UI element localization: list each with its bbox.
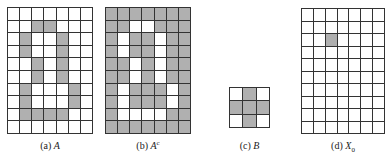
- empty-cell: [8, 33, 20, 46]
- caption-prefix: (b): [136, 140, 150, 151]
- caption-panel-b: (b) Ac: [105, 140, 191, 151]
- filled-cell: [118, 121, 130, 134]
- empty-cell: [57, 21, 69, 34]
- empty-cell: [57, 84, 69, 97]
- filled-cell: [32, 58, 44, 71]
- empty-cell: [44, 96, 56, 109]
- empty-cell: [338, 97, 350, 110]
- filled-cell: [167, 58, 179, 71]
- filled-cell: [57, 109, 69, 122]
- filled-cell: [20, 46, 32, 59]
- empty-cell: [130, 71, 142, 84]
- empty-cell: [314, 109, 326, 122]
- empty-cell: [373, 109, 385, 122]
- grid-panel-c: [229, 87, 270, 128]
- empty-cell: [118, 96, 130, 109]
- empty-cell: [81, 121, 93, 134]
- filled-cell: [32, 109, 44, 122]
- empty-cell: [32, 84, 44, 97]
- filled-cell: [32, 71, 44, 84]
- empty-cell: [338, 9, 350, 22]
- empty-cell: [338, 72, 350, 85]
- empty-cell: [69, 121, 81, 134]
- empty-cell: [373, 97, 385, 110]
- empty-cell: [314, 59, 326, 72]
- filled-cell: [167, 33, 179, 46]
- empty-cell: [326, 84, 338, 97]
- filled-cell: [118, 58, 130, 71]
- empty-cell: [20, 8, 32, 21]
- empty-cell: [44, 33, 56, 46]
- empty-cell: [142, 21, 154, 34]
- empty-cell: [155, 58, 167, 71]
- filled-cell: [167, 121, 179, 134]
- empty-cell: [314, 122, 326, 135]
- empty-cell: [373, 22, 385, 35]
- filled-cell: [179, 96, 191, 109]
- filled-cell: [106, 58, 118, 71]
- empty-cell: [338, 34, 350, 47]
- caption-prefix: (c): [240, 140, 254, 151]
- filled-cell: [155, 8, 167, 21]
- empty-cell: [8, 21, 20, 34]
- empty-cell: [349, 97, 361, 110]
- filled-cell: [69, 84, 81, 97]
- filled-cell: [57, 58, 69, 71]
- empty-cell: [314, 84, 326, 97]
- filled-cell: [118, 8, 130, 21]
- filled-cell: [167, 71, 179, 84]
- filled-cell: [106, 71, 118, 84]
- filled-cell: [167, 46, 179, 59]
- empty-cell: [361, 84, 373, 97]
- empty-cell: [44, 84, 56, 97]
- empty-cell: [8, 8, 20, 21]
- empty-cell: [230, 115, 243, 128]
- empty-cell: [118, 46, 130, 59]
- empty-cell: [302, 34, 314, 47]
- empty-cell: [314, 9, 326, 22]
- empty-cell: [361, 59, 373, 72]
- empty-cell: [326, 47, 338, 60]
- empty-cell: [326, 109, 338, 122]
- empty-cell: [81, 58, 93, 71]
- filled-cell: [326, 34, 338, 47]
- filled-cell: [69, 96, 81, 109]
- empty-cell: [326, 97, 338, 110]
- empty-cell: [302, 97, 314, 110]
- filled-cell: [130, 46, 142, 59]
- empty-cell: [69, 71, 81, 84]
- empty-cell: [349, 122, 361, 135]
- filled-cell: [155, 121, 167, 134]
- filled-cell: [257, 101, 270, 114]
- empty-cell: [69, 33, 81, 46]
- empty-cell: [314, 22, 326, 35]
- empty-cell: [20, 21, 32, 34]
- empty-cell: [361, 34, 373, 47]
- filled-cell: [106, 46, 118, 59]
- empty-cell: [257, 115, 270, 128]
- filled-cell: [243, 101, 256, 114]
- empty-cell: [338, 109, 350, 122]
- filled-cell: [243, 115, 256, 128]
- empty-cell: [338, 59, 350, 72]
- grid-panel-a: [7, 7, 93, 134]
- empty-cell: [338, 122, 350, 135]
- filled-cell: [243, 88, 256, 101]
- grid-panel-d: [301, 8, 385, 134]
- empty-cell: [44, 58, 56, 71]
- empty-cell: [167, 96, 179, 109]
- filled-cell: [106, 96, 118, 109]
- empty-cell: [373, 72, 385, 85]
- empty-cell: [302, 22, 314, 35]
- filled-cell: [20, 33, 32, 46]
- filled-cell: [230, 101, 243, 114]
- empty-cell: [44, 8, 56, 21]
- caption-superscript: c: [157, 139, 160, 147]
- empty-cell: [373, 34, 385, 47]
- empty-cell: [142, 109, 154, 122]
- empty-cell: [32, 33, 44, 46]
- filled-cell: [179, 58, 191, 71]
- empty-cell: [44, 71, 56, 84]
- filled-cell: [142, 84, 154, 97]
- empty-cell: [8, 84, 20, 97]
